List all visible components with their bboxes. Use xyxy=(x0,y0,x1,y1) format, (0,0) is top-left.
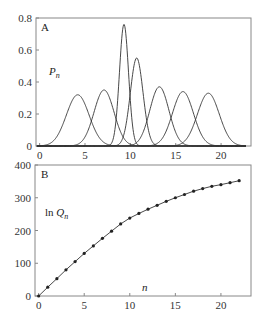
y-tick-label: 0.4 xyxy=(18,76,32,88)
data-point xyxy=(137,212,140,215)
data-point xyxy=(192,190,195,193)
panel-b: 0100200300400 05101520 B ln Qn n xyxy=(15,159,252,311)
x-tick-label: 20 xyxy=(215,299,227,311)
data-point xyxy=(101,237,104,240)
panel-b-xlabel: n xyxy=(142,281,148,293)
figure: 00.20.40.60.8 05101520 A Pn 010020030040… xyxy=(0,0,267,323)
panel-b-y-ticks: 0100200300400 xyxy=(15,159,39,302)
y-tick-label: 0 xyxy=(27,140,33,152)
panel-b-ylabel: ln Qn xyxy=(45,206,68,221)
data-point xyxy=(183,193,186,196)
data-point xyxy=(174,196,177,199)
distribution-curve xyxy=(37,92,246,146)
data-point xyxy=(219,183,222,186)
y-tick-label: 400 xyxy=(15,159,32,171)
y-tick-label: 300 xyxy=(15,192,32,204)
x-tick-label: 5 xyxy=(81,299,87,311)
data-point xyxy=(238,179,241,182)
x-tick-label: 15 xyxy=(170,149,182,161)
data-point xyxy=(74,260,77,263)
y-tick-label: 100 xyxy=(15,257,32,269)
x-tick-label: 15 xyxy=(170,299,182,311)
distribution-curve xyxy=(37,90,246,146)
x-tick-label: 20 xyxy=(216,149,228,161)
panel-b-series xyxy=(37,179,241,297)
distribution-curve xyxy=(37,87,246,146)
x-tick-label: 0 xyxy=(37,149,43,161)
x-tick-label: 10 xyxy=(124,299,136,311)
data-point xyxy=(37,294,40,297)
data-point xyxy=(83,252,86,255)
x-tick-label: 5 xyxy=(82,149,88,161)
data-point xyxy=(92,244,95,247)
data-point xyxy=(146,208,149,211)
y-tick-label: 0 xyxy=(26,290,32,302)
panel-a: 00.20.40.60.8 05101520 A Pn xyxy=(18,12,251,161)
y-tick-label: 0.6 xyxy=(18,44,32,56)
data-point xyxy=(228,181,231,184)
distribution-curve xyxy=(37,24,246,146)
panel-a-frame xyxy=(36,18,251,146)
panel-a-letter: A xyxy=(41,21,49,33)
data-point xyxy=(46,286,49,289)
y-tick-label: 200 xyxy=(15,225,32,237)
data-point xyxy=(119,222,122,225)
x-tick-label: 0 xyxy=(36,299,42,311)
ln-q-line xyxy=(39,181,240,296)
panel-b-letter: B xyxy=(41,168,48,180)
data-point xyxy=(165,200,168,203)
data-point xyxy=(64,268,67,271)
data-point xyxy=(210,185,213,188)
panel-a-ylabel: Pn xyxy=(48,65,60,80)
data-point xyxy=(128,216,131,219)
data-point xyxy=(201,187,204,190)
data-point xyxy=(55,277,58,280)
y-tick-label: 0.2 xyxy=(18,108,32,120)
panel-a-curves xyxy=(37,24,246,146)
distribution-curve xyxy=(37,95,246,146)
data-point xyxy=(110,230,113,233)
y-tick-label: 0.8 xyxy=(18,12,32,24)
data-point xyxy=(156,204,159,207)
x-tick-label: 10 xyxy=(125,149,137,161)
distribution-curve xyxy=(37,93,246,146)
